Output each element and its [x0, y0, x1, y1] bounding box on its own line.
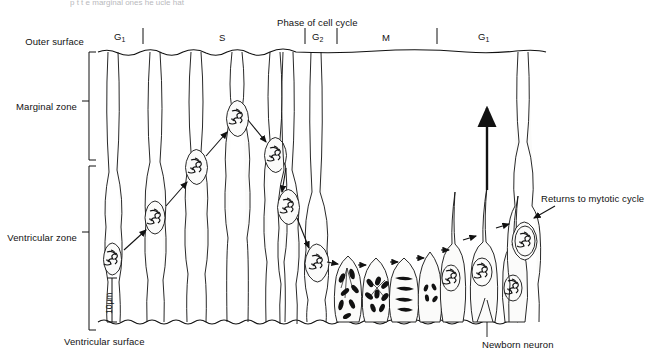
cell-m-telophase	[418, 252, 442, 322]
diagram-canvas	[0, 0, 665, 356]
ventricular-zone-bracket	[82, 166, 96, 330]
cell-s-a	[185, 52, 208, 322]
cell-g1-b	[145, 52, 166, 322]
cell-s-b	[225, 52, 250, 322]
outer-surface-line	[98, 49, 546, 55]
neuroepithelial-cells	[104, 52, 330, 324]
scale-bar	[107, 278, 117, 322]
marginal-zone-bracket	[82, 52, 96, 160]
figure-cell-cycle-migration: p t t e marginal ones he ucle hat Phase …	[0, 0, 665, 356]
cell-g1-a	[104, 52, 123, 322]
cell-newborn-neuron	[470, 186, 497, 322]
phase-divider-ticks	[143, 28, 437, 44]
cell-s-c	[264, 52, 287, 322]
cell-daughter-a	[440, 192, 465, 322]
cell-g2	[304, 52, 329, 322]
